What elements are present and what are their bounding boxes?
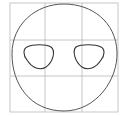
mask-outline [12,4,117,111]
left-eye-hole [24,45,53,69]
mask-diagram [0,0,123,117]
right-eye-hole [74,45,104,69]
